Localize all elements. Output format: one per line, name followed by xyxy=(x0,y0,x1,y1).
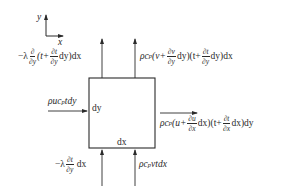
coordinate-axes xyxy=(46,15,63,36)
right-convection-label: ρcp (u+ ∂u ∂x dx)(t+ ∂t ∂x dx)dy xyxy=(160,115,254,132)
element-width-label: dx xyxy=(117,138,127,148)
temperature-gradient-fraction: ∂t ∂y xyxy=(50,48,58,65)
bottom-convection-label: ρcpvtdx xyxy=(139,160,167,170)
temperature-gradient-fraction: ∂t ∂y xyxy=(66,156,74,173)
top-conduction-label: −λ ∂ ∂y (t+ ∂t ∂y dy)dx xyxy=(18,48,81,65)
velocity-gradient-fraction: ∂u ∂x xyxy=(187,115,196,132)
temperature-gradient-fraction: ∂t ∂y xyxy=(202,48,210,65)
partial-operator-fraction: ∂ ∂y xyxy=(29,48,36,65)
top-convection-label: ρcp (v+ ∂v ∂y dy)(t+ ∂t ∂y dy)dx xyxy=(140,48,233,65)
y-axis-label: y xyxy=(37,13,41,23)
velocity-gradient-fraction: ∂v ∂y xyxy=(167,48,176,65)
left-convection-label: ρucptdy xyxy=(48,97,76,107)
element-height-label: dy xyxy=(92,104,102,114)
temperature-gradient-fraction: ∂t ∂x xyxy=(223,115,231,132)
x-axis-label: x xyxy=(58,38,62,48)
bottom-conduction-label: −λ ∂t ∂y dx xyxy=(55,156,86,173)
